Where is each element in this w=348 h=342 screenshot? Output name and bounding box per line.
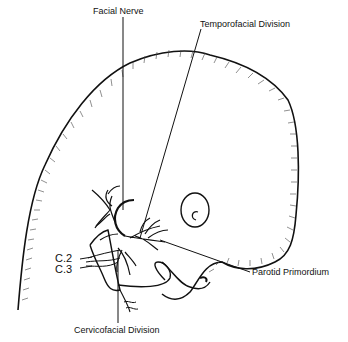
optic-vesicle (181, 193, 209, 227)
embryo-facial-nerve-diagram: Facial Nerve Temporofacial Division Paro… (0, 0, 348, 342)
leader-c2 (80, 257, 92, 259)
label-cervicofacial-division: Cervicofacial Division (74, 325, 160, 335)
diagram-svg: Facial Nerve Temporofacial Division Paro… (0, 0, 348, 342)
leader-temporofacial (140, 29, 201, 238)
label-parotid-primordium: Parotid Primordium (252, 267, 329, 277)
label-facial-nerve: Facial Nerve (93, 6, 144, 16)
label-temporofacial-division: Temporofacial Division (200, 19, 290, 29)
label-c3: C.3 (55, 263, 72, 275)
leader-parotid (160, 240, 250, 272)
nerve-branches (86, 186, 168, 275)
leader-lines (80, 17, 250, 323)
